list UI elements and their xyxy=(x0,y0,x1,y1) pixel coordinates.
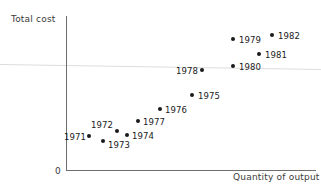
data-point-1977 xyxy=(136,119,140,123)
x-axis-line xyxy=(66,170,316,171)
data-point-1971 xyxy=(87,134,91,138)
data-point-label-1978: 1978 xyxy=(176,66,198,76)
data-point-label-1982: 1982 xyxy=(278,31,300,41)
data-point-label-1981: 1981 xyxy=(265,50,287,60)
data-point-label-1971: 1971 xyxy=(64,132,86,142)
y-axis-title: Total cost xyxy=(11,14,56,24)
x-axis-title: Quantity of output xyxy=(233,172,320,182)
data-point-1981 xyxy=(257,52,261,56)
data-point-1978 xyxy=(200,68,204,72)
origin-tick-label: 0 xyxy=(55,166,61,176)
data-point-label-1979: 1979 xyxy=(239,35,261,45)
data-point-1979 xyxy=(231,37,235,41)
data-point-label-1974: 1974 xyxy=(132,131,154,141)
data-point-label-1975: 1975 xyxy=(198,91,220,101)
data-point-label-1976: 1976 xyxy=(165,105,187,115)
data-point-1973 xyxy=(101,139,105,143)
data-point-label-1977: 1977 xyxy=(143,117,165,127)
scan-artifact-line xyxy=(0,64,321,70)
data-point-1975 xyxy=(190,93,194,97)
data-point-label-1980: 1980 xyxy=(239,62,261,72)
cost-output-scatter-chart: Total cost Quantity of output 0 19711972… xyxy=(0,0,321,190)
y-axis-line xyxy=(66,16,67,171)
data-point-label-1973: 1973 xyxy=(108,140,130,150)
data-point-1976 xyxy=(158,107,162,111)
data-point-1982 xyxy=(270,33,274,37)
data-point-label-1972: 1972 xyxy=(91,120,113,130)
data-point-1972 xyxy=(115,129,119,133)
data-point-1980 xyxy=(231,64,235,68)
data-point-1974 xyxy=(125,133,129,137)
